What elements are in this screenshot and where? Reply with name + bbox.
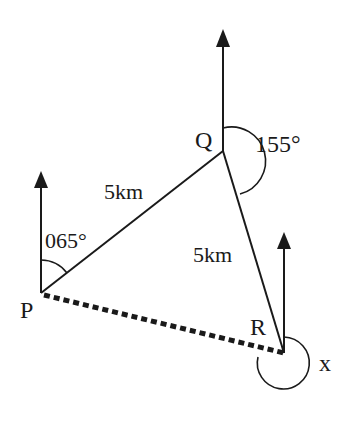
north-arrow-q (216, 29, 230, 151)
point-label-r: R (250, 314, 266, 340)
point-label-q: Q (195, 127, 212, 153)
point-label-p: P (20, 297, 33, 323)
bearing-diagram: P Q R 5km 5km 065° 155° x (0, 0, 357, 422)
arrowhead-icon (216, 29, 230, 47)
edge-pq (41, 151, 223, 293)
arrowhead-icon (277, 232, 291, 249)
angle-label-r: x (319, 350, 331, 376)
angle-label-q: 155° (255, 131, 301, 157)
angle-arc-p (41, 260, 67, 273)
edge-label-qr: 5km (193, 242, 232, 267)
angle-label-p: 065° (45, 228, 87, 253)
edge-pr-dashed (44, 295, 284, 353)
edge-label-pq: 5km (104, 179, 143, 204)
arrowhead-icon (34, 171, 48, 188)
